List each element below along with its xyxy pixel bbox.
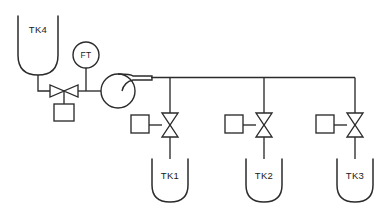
vessel-tk2-label: TK2 [255, 170, 273, 181]
vessel-tk2: TK2 [246, 159, 282, 202]
vessel-tk4: TK4 [18, 16, 58, 75]
branch-tk3: TK3 [316, 78, 373, 203]
pid-diagram-svg: TK4 FT [0, 0, 392, 219]
branch-valve-tk3[interactable] [316, 113, 363, 137]
vessel-tk1: TK1 [152, 159, 188, 202]
vessel-tk4-label: TK4 [29, 24, 47, 35]
feed-valve-actuator-box[interactable] [54, 104, 74, 121]
branch-tk2: TK2 [225, 78, 282, 203]
branch-valve-tk1-bottom-triangle [162, 125, 178, 137]
branch-valve-tk1-top-triangle [162, 113, 178, 125]
feed-valve-left-triangle [50, 85, 64, 97]
vessel-tk3-label: TK3 [346, 170, 364, 181]
pump-casing[interactable] [101, 74, 135, 108]
branch-valve-tk3-actuator-box[interactable] [316, 115, 334, 133]
pid-diagram-canvas: TK4 FT [0, 0, 392, 219]
branch-valve-tk2-bottom-triangle [256, 125, 272, 137]
branch-valve-tk3-bottom-triangle [347, 125, 363, 137]
branch-valve-tk2[interactable] [225, 113, 272, 137]
feed-valve-right-triangle [64, 85, 78, 97]
branch-valve-tk2-actuator-box[interactable] [225, 115, 243, 133]
vessel-tk3: TK3 [337, 159, 373, 202]
branch-tk1: TK1 [131, 78, 188, 203]
vessel-tk1-label: TK1 [161, 170, 179, 181]
branch-valve-tk1[interactable] [131, 113, 178, 137]
pump[interactable] [101, 74, 152, 108]
instrument-ft-label: FT [81, 50, 92, 60]
branch-valve-tk2-top-triangle [256, 113, 272, 125]
feed-control-valve[interactable] [50, 85, 78, 121]
pipe-tk4-outlet [38, 75, 50, 91]
branch-valve-tk3-top-triangle [347, 113, 363, 125]
instrument-ft[interactable]: FT [73, 42, 99, 91]
branch-valve-tk1-actuator-box[interactable] [131, 115, 149, 133]
